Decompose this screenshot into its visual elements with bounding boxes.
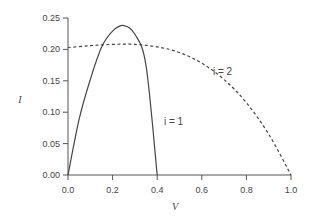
y-tick-label: 0.20 — [42, 44, 60, 54]
series-line-1 — [68, 25, 157, 175]
axes: 0.000.050.100.150.200.250.00.20.40.60.81… — [42, 13, 297, 195]
series-annotation-2: i = 2 — [213, 66, 233, 77]
x-tick-label: 0.6 — [196, 185, 209, 195]
series-line-2 — [68, 44, 291, 175]
x-tick-label: 1.0 — [285, 185, 298, 195]
y-tick-label: 0.05 — [42, 139, 60, 149]
x-tick-label: 0.0 — [62, 185, 75, 195]
series-annotation-1: i = 1 — [164, 116, 184, 127]
y-axis-label: I — [17, 94, 22, 105]
x-tick-label: 0.4 — [151, 185, 164, 195]
y-tick-label: 0.15 — [42, 76, 60, 86]
x-tick-label: 0.8 — [240, 185, 253, 195]
chart: 0.000.050.100.150.200.250.00.20.40.60.81… — [0, 0, 314, 220]
y-tick-label: 0.25 — [42, 13, 60, 23]
x-axis-label: V — [172, 201, 180, 212]
y-tick-label: 0.10 — [42, 107, 60, 117]
series-group — [68, 25, 291, 175]
x-tick-label: 0.2 — [106, 185, 119, 195]
y-tick-label: 0.00 — [42, 170, 60, 180]
